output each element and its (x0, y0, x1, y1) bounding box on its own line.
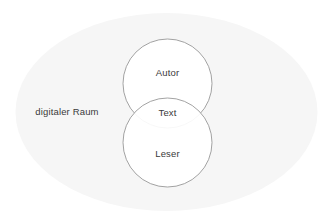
venn-diagram: digitaler Raum Autor Text Leser (0, 0, 333, 224)
venn-diagram-canvas: digitaler Raum Autor Text Leser (0, 0, 333, 224)
leser-label: Leser (155, 148, 180, 159)
autor-label: Autor (156, 67, 179, 78)
text-intersection-label: Text (158, 107, 176, 118)
digitaler-raum-label: digitaler Raum (35, 106, 98, 117)
